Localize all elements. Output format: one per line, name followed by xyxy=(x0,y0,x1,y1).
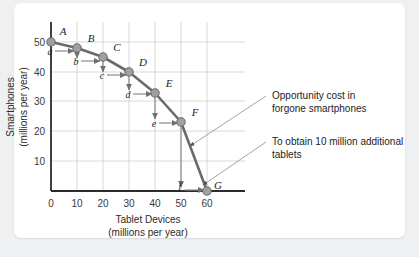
x-tick-40: 40 xyxy=(149,198,161,209)
y-tick-50: 50 xyxy=(34,37,46,48)
data-point-D[interactable] xyxy=(125,68,133,76)
y-axis-title: Smartphones (millions per year) xyxy=(5,67,29,146)
y-tick-10: 10 xyxy=(34,156,46,167)
ppf-chart: 50 40 30 20 10 0 10 20 30 40 50 60 Table… xyxy=(0,0,419,257)
y-tick-20: 20 xyxy=(34,126,46,137)
data-point-F[interactable] xyxy=(177,118,185,126)
x-axis-title-line1: Tablet Devices xyxy=(115,214,180,225)
point-label-G: G xyxy=(214,179,222,191)
point-label-E: E xyxy=(165,77,173,89)
x-tick-0: 0 xyxy=(48,198,54,209)
arrow-label-a: a xyxy=(48,46,53,57)
callout-leaders xyxy=(190,96,266,185)
x-tick-30: 30 xyxy=(123,198,135,209)
annotation-additional-tablets: To obtain 10 million additional tablets xyxy=(272,136,403,160)
annotation-opportunity-cost: Opportunity cost in forgone smartphones xyxy=(272,90,367,114)
x-tick-60: 60 xyxy=(201,198,213,209)
arrow-label-b: b xyxy=(74,56,79,67)
x-axis-title: Tablet Devices (millions per year) xyxy=(108,214,187,238)
data-point-C[interactable] xyxy=(99,53,107,61)
leader-opportunity-cost xyxy=(190,96,266,146)
point-label-B: B xyxy=(88,32,95,44)
arrow-label-e: e xyxy=(152,118,157,129)
arrow-label-d: d xyxy=(126,89,132,100)
leader-additional-tablets xyxy=(203,142,266,185)
point-label-C: C xyxy=(113,41,121,53)
data-point-G[interactable] xyxy=(203,187,211,195)
y-axis-title-line2: (millions per year) xyxy=(18,67,29,146)
y-axis-title-line1: Smartphones xyxy=(5,77,16,136)
data-point-E[interactable] xyxy=(151,89,159,97)
step-arrow-labels: a b c d e f xyxy=(48,46,183,192)
annotation-opportunity-cost-line1: Opportunity cost in xyxy=(272,90,355,101)
x-axis-title-line2: (millions per year) xyxy=(108,227,187,238)
point-label-F: F xyxy=(191,106,199,118)
y-tick-30: 30 xyxy=(34,96,46,107)
x-tick-20: 20 xyxy=(97,198,109,209)
point-label-D: D xyxy=(138,56,147,68)
data-point-B[interactable] xyxy=(73,44,81,52)
data-point-A[interactable] xyxy=(47,38,55,46)
x-tick-50: 50 xyxy=(175,198,187,209)
x-tick-10: 10 xyxy=(71,198,83,209)
annotation-additional-tablets-line2: tablets xyxy=(272,149,301,160)
point-label-A: A xyxy=(59,25,67,37)
x-tick-labels: 0 10 20 30 40 50 60 xyxy=(48,198,213,209)
annotation-opportunity-cost-line2: forgone smartphones xyxy=(272,103,367,114)
arrow-label-c: c xyxy=(100,70,105,81)
annotation-additional-tablets-line1: To obtain 10 million additional xyxy=(272,136,403,147)
y-tick-40: 40 xyxy=(34,67,46,78)
y-tick-labels: 50 40 30 20 10 xyxy=(34,37,46,167)
